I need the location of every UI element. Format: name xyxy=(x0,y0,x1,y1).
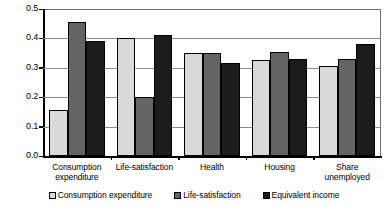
y-tick-label-wrap: 0.1 xyxy=(0,122,38,131)
bar-group xyxy=(49,9,105,156)
category-label: Share unemployed xyxy=(313,162,381,182)
legend-item: Consumption expenditure xyxy=(49,191,153,200)
bar-group xyxy=(184,9,240,156)
bar-group xyxy=(319,9,375,156)
legend-label: Consumption expenditure xyxy=(58,191,153,200)
y-tick-label-wrap: 0.0 xyxy=(0,151,38,160)
y-tick-label: 0.1 xyxy=(2,122,38,131)
bar xyxy=(68,22,87,156)
category-label-line: Consumption xyxy=(43,162,111,172)
x-tick-mark xyxy=(178,156,180,160)
bar xyxy=(203,53,222,156)
category-label-line: expenditure xyxy=(43,172,111,182)
cut-off-caption xyxy=(0,204,388,211)
bar xyxy=(338,59,357,156)
category-label-line: Housing xyxy=(246,162,314,172)
bar xyxy=(135,97,154,156)
bar xyxy=(117,38,136,156)
bars-layer xyxy=(43,9,381,156)
bar-group xyxy=(252,9,308,156)
bar xyxy=(221,63,240,156)
legend-label: Life-satisfaction xyxy=(183,191,240,200)
category-label-line: Share unemployed xyxy=(313,162,381,182)
chart-legend: Consumption expenditureLife-satisfaction… xyxy=(0,189,388,201)
legend-label: Equivalent income xyxy=(272,191,340,200)
grouped-bar-chart: 0.00.10.20.30.40.5 Consumptionexpenditur… xyxy=(0,0,388,211)
x-tick-mark xyxy=(313,156,315,160)
y-tick-label-wrap: 0.2 xyxy=(0,92,38,101)
bar-group xyxy=(117,9,173,156)
bar xyxy=(184,53,203,156)
category-label: Health xyxy=(178,162,246,172)
bar xyxy=(289,59,308,156)
category-label-line: Health xyxy=(178,162,246,172)
bar xyxy=(49,110,68,156)
y-tick-label-wrap: 0.5 xyxy=(0,4,38,13)
category-label: Life-satisfaction xyxy=(111,162,179,172)
y-tick-label: 0.4 xyxy=(2,33,38,42)
legend-swatch-icon xyxy=(263,192,270,199)
bar xyxy=(252,60,271,156)
legend-item: Equivalent income xyxy=(263,191,340,200)
legend-swatch-icon xyxy=(49,192,56,199)
bar xyxy=(270,52,289,156)
legend-item: Life-satisfaction xyxy=(174,191,240,200)
y-tick-label-wrap: 0.4 xyxy=(0,33,38,42)
y-tick-label: 0.5 xyxy=(2,4,38,13)
bar xyxy=(356,44,375,156)
y-tick-label: 0.3 xyxy=(2,63,38,72)
category-label: Consumptionexpenditure xyxy=(43,162,111,182)
y-tick-label: 0.2 xyxy=(2,92,38,101)
bar xyxy=(86,41,105,156)
bar xyxy=(319,66,338,156)
x-axis-line xyxy=(43,156,382,158)
y-tick-label: 0.0 xyxy=(2,151,38,160)
y-tick-label-wrap: 0.3 xyxy=(0,63,38,72)
category-label-line: Life-satisfaction xyxy=(111,162,179,172)
x-tick-mark xyxy=(246,156,248,160)
bar xyxy=(154,35,173,156)
x-tick-mark xyxy=(111,156,113,160)
legend-swatch-icon xyxy=(174,192,181,199)
category-label: Housing xyxy=(246,162,314,172)
